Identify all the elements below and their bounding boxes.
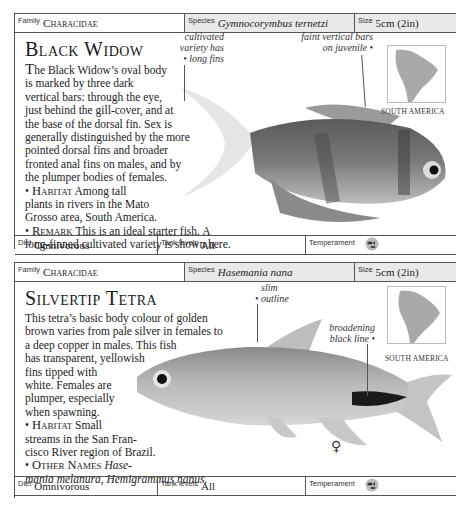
family-value: Characidae bbox=[43, 17, 97, 29]
tank-levels-value: All bbox=[201, 239, 215, 251]
tank-levels-label: Tank levels bbox=[161, 238, 198, 247]
species-label: Species bbox=[188, 265, 215, 274]
entry-header: Family Characidae Species Gymnocorymbus … bbox=[15, 13, 456, 33]
map-label: SOUTH AMERICA bbox=[381, 107, 445, 116]
size-cell: Size 5cm (2in) bbox=[355, 263, 456, 281]
family-label: Family bbox=[18, 16, 40, 25]
family-cell: Family Characidae bbox=[15, 263, 185, 281]
annotation-long-fins: cultivated variety has • long fins bbox=[176, 31, 224, 64]
family-value: Characidae bbox=[43, 266, 97, 278]
temperament-label: Temperament bbox=[309, 238, 355, 247]
annotation-leader-line bbox=[184, 65, 185, 101]
annotation-vertical-bars: faint vertical bars on juvenile • bbox=[295, 31, 373, 53]
family-label: Family bbox=[18, 265, 40, 274]
species-label: Species bbox=[188, 16, 215, 25]
habitat-label: Habitat bbox=[32, 418, 72, 432]
other-names-label: Other Names bbox=[32, 458, 102, 472]
peaceful-fish-icon bbox=[364, 478, 380, 492]
tank-levels-value: All bbox=[201, 480, 215, 492]
range-map bbox=[387, 286, 446, 344]
entry-black-widow: Family Characidae Species Gymnocorymbus … bbox=[14, 13, 456, 249]
species-title: Silvertip Tetra bbox=[25, 287, 157, 310]
species-value: Gymnocorymbus ternetzi bbox=[218, 17, 328, 29]
description-line: TThe Black Widow’s oval bodyhe Black Wid… bbox=[25, 63, 245, 77]
diet-cell: Diet Omnivorous bbox=[15, 477, 158, 495]
south-america-map-icon bbox=[388, 287, 445, 343]
temperament-label: Temperament bbox=[309, 479, 355, 488]
annotation-black-line: broadening black line • bbox=[321, 322, 375, 344]
species-title: Black Widow bbox=[25, 38, 144, 61]
size-label: Size bbox=[358, 16, 373, 25]
species-cell: Species Hasemania nana bbox=[185, 263, 355, 281]
diet-label: Diet bbox=[18, 238, 31, 247]
temperament-cell: Temperament bbox=[306, 477, 456, 495]
entry-header: Family Characidae Species Hasemania nana… bbox=[15, 262, 456, 282]
species-cell: Species Gymnocorymbus ternetzi bbox=[185, 14, 355, 32]
female-symbol-icon: ♀ bbox=[331, 438, 341, 454]
annotation-leader-line bbox=[367, 344, 368, 396]
entry-footer: Diet Omnivorous Tank levels All Temperam… bbox=[15, 476, 456, 496]
entry-silvertip-tetra: Family Characidae Species Hasemania nana… bbox=[14, 262, 456, 498]
family-cell: Family Characidae bbox=[15, 14, 185, 32]
size-label: Size bbox=[358, 265, 373, 274]
tank-levels-label: Tank levels bbox=[161, 479, 198, 488]
size-value: 5cm (2in) bbox=[376, 266, 419, 278]
tank-levels-cell: Tank levels All bbox=[158, 477, 306, 495]
range-map bbox=[387, 45, 446, 103]
habitat-label: Habitat bbox=[32, 184, 72, 198]
map-label: SOUTH AMERICA bbox=[385, 354, 449, 363]
temperament-cell: Temperament bbox=[306, 236, 456, 254]
peaceful-fish-icon bbox=[364, 237, 380, 251]
size-value: 5cm (2in) bbox=[376, 17, 419, 29]
annotation-leader-line bbox=[257, 304, 258, 342]
south-america-map-icon bbox=[388, 46, 445, 102]
tank-levels-cell: Tank levels All bbox=[158, 236, 306, 254]
diet-cell: Diet Omnivorous bbox=[15, 236, 158, 254]
other-names-line: • Other Names Hase- bbox=[25, 459, 255, 472]
species-value: Hasemania nana bbox=[218, 266, 293, 278]
entry-footer: Diet Omnivorous Tank levels All Temperam… bbox=[15, 235, 456, 255]
diet-label: Diet bbox=[18, 479, 31, 488]
diet-value: Omnivorous bbox=[34, 239, 89, 251]
diet-value: Omnivorous bbox=[34, 480, 89, 492]
size-cell: Size 5cm (2in) bbox=[355, 14, 456, 32]
annotation-slim-outline: slim • outline bbox=[255, 282, 289, 304]
